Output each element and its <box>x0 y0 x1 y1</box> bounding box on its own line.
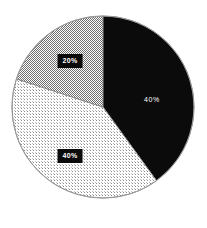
pie-slices <box>12 16 194 198</box>
pie-chart-canvas <box>0 0 207 228</box>
slice-label-light-dotted: 40% <box>58 149 83 163</box>
pie-chart: 40% 40% 20% <box>0 0 207 228</box>
slice-label-black: 40% <box>144 96 160 103</box>
slice-label-checkerboard: 20% <box>58 54 83 68</box>
